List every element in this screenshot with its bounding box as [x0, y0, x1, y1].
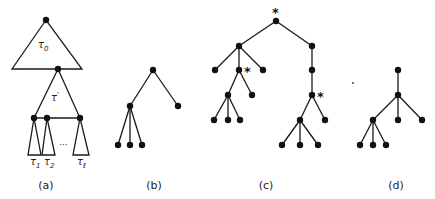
tau-l-triangle — [73, 118, 89, 155]
edge — [118, 106, 130, 145]
edge — [373, 95, 398, 120]
tree-node — [175, 103, 181, 109]
tree-node — [322, 117, 328, 123]
edge — [373, 120, 386, 145]
tau0-label: τ0 — [38, 39, 49, 53]
tree-node — [236, 67, 242, 73]
tree-node — [370, 117, 376, 123]
tree-node — [395, 67, 401, 73]
caption-b: (b) — [146, 179, 162, 192]
tree-node — [139, 142, 145, 148]
tau-l-root-node — [77, 115, 83, 121]
tree-node — [115, 142, 121, 148]
tree-node — [395, 92, 401, 98]
edge — [239, 21, 276, 46]
tree-node — [309, 67, 315, 73]
tree-node — [297, 142, 303, 148]
caption-a: (a) — [38, 179, 53, 192]
marked-star: * — [244, 64, 251, 79]
tau-prime-label: τ' — [51, 91, 59, 103]
edge — [276, 21, 312, 46]
root-node — [43, 17, 49, 23]
edge — [228, 95, 240, 120]
tree-node — [395, 117, 401, 123]
tau-l-label: τℓ — [77, 156, 86, 170]
caption-d: (d) — [388, 179, 404, 192]
panel-b: (b) — [115, 67, 181, 192]
edge — [214, 95, 228, 120]
tree-node — [370, 142, 376, 148]
tau2-triangle — [42, 118, 55, 155]
tree-node — [297, 117, 303, 123]
edge — [130, 70, 153, 106]
edge — [130, 106, 142, 145]
marked-star: * — [272, 5, 279, 20]
tree-node — [260, 67, 266, 73]
tree-node — [150, 67, 156, 73]
tau1-root-node — [31, 115, 37, 121]
figure: τ0 τ' ··· τ1 τ2 τℓ (a) (b) — [0, 0, 435, 199]
tau-prime-root-node — [55, 66, 61, 72]
marked-star: * — [317, 89, 324, 104]
edge — [300, 95, 312, 120]
edge — [215, 46, 239, 70]
tree-node — [419, 117, 425, 123]
tree-node — [225, 117, 231, 123]
tree-node — [357, 142, 363, 148]
tree-node — [249, 92, 255, 98]
edge — [153, 70, 178, 106]
tree-node — [309, 43, 315, 49]
tree-node — [309, 92, 315, 98]
tree-node — [225, 92, 231, 98]
caption-c: (c) — [259, 179, 274, 192]
tree-node — [127, 103, 133, 109]
panel-c: * * * (c) — [211, 5, 328, 192]
edge — [228, 70, 239, 95]
tau1-label: τ1 — [30, 156, 41, 170]
stray-dot — [352, 82, 354, 84]
panel-d: (d) — [352, 67, 425, 192]
tree-node — [236, 43, 242, 49]
tau2-root-node — [44, 115, 50, 121]
edge — [398, 95, 422, 120]
edge — [300, 120, 318, 145]
tau2-label: τ2 — [44, 156, 55, 170]
tree-node — [279, 142, 285, 148]
panel-a: τ0 τ' ··· τ1 τ2 τℓ (a) — [12, 17, 89, 192]
tree-node — [315, 142, 321, 148]
tree-node — [212, 67, 218, 73]
ellipsis: ··· — [59, 140, 68, 150]
tree-node — [127, 142, 133, 148]
edge — [239, 46, 263, 70]
edge — [282, 120, 300, 145]
tau1-triangle — [28, 118, 41, 155]
tree-node — [383, 142, 389, 148]
edge — [360, 120, 373, 145]
tree-node — [211, 117, 217, 123]
tree-node — [237, 117, 243, 123]
